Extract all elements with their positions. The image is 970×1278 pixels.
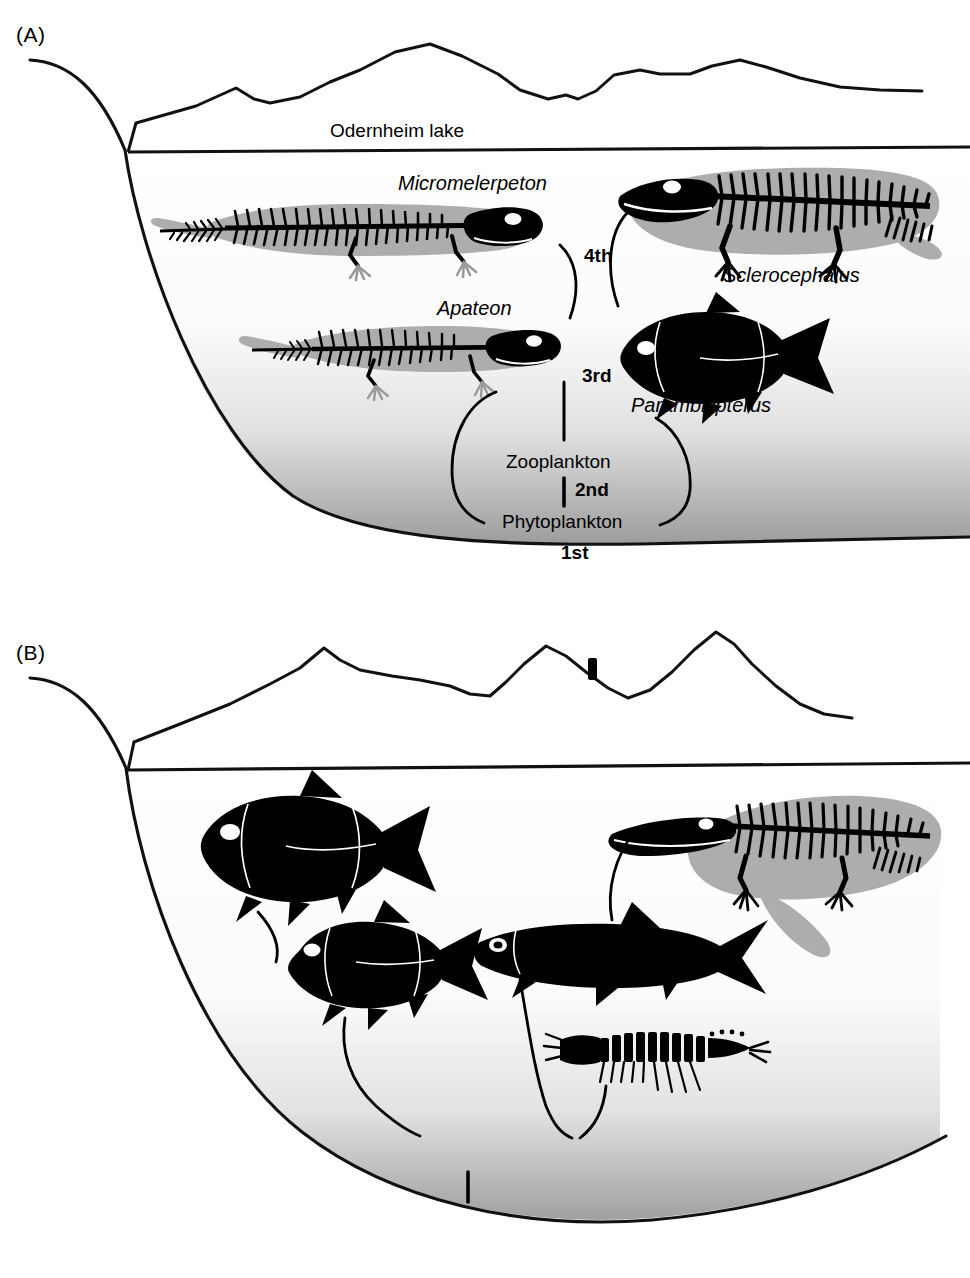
shore-slope-b: [128, 742, 134, 770]
phytoplankton-label-a: Phytoplankton: [502, 512, 622, 531]
trophic-4th-a: 4th: [584, 246, 613, 265]
shore-slope-a: [128, 123, 136, 152]
trophic-1st-a: 1st: [561, 543, 588, 562]
taxon-paramblypterus-a: Paramblypterus: [631, 395, 771, 415]
taxon-micromelerpeton: Micromelerpeton: [398, 173, 547, 193]
terrain-skyline-b: [134, 632, 852, 742]
taxon-apateon: Apateon: [437, 298, 512, 318]
taxon-sclerocephalus: Sclerocephalus: [723, 265, 860, 285]
trophic-2nd-a: 2nd: [575, 480, 609, 499]
lake-name-a: Odernheim lake: [330, 121, 464, 140]
trophic-3rd-a: 3rd: [582, 366, 612, 385]
zooplankton-label-a: Zooplankton: [506, 452, 611, 471]
panel-b: (B): [0, 620, 970, 1278]
panel-a: (A): [0, 0, 970, 620]
terrain-skyline-a: [136, 44, 922, 123]
panel-b-illustration: [0, 620, 970, 1278]
